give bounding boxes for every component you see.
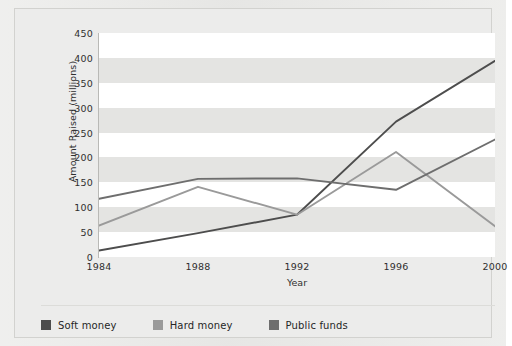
legend-swatch-icon	[269, 320, 279, 330]
y-axis-tick-label: 150	[53, 177, 93, 188]
legend-label: Public funds	[286, 320, 348, 331]
legend-item[interactable]: Public funds	[269, 320, 348, 331]
x-axis-tick-label: 1992	[267, 261, 327, 272]
y-axis-tick-label: 250	[53, 127, 93, 138]
y-axis-tick-label: 100	[53, 202, 93, 213]
series-lines	[99, 33, 495, 257]
legend-swatch-icon	[41, 320, 51, 330]
legend-divider	[41, 305, 495, 306]
x-axis-tick-label: 1996	[366, 261, 426, 272]
x-axis-tick-label: 2000	[465, 261, 512, 272]
legend-item[interactable]: Soft money	[41, 320, 117, 331]
y-axis-tick-label: 450	[53, 28, 93, 39]
x-axis-tick-label: 1988	[168, 261, 228, 272]
y-axis-tick-label: 300	[53, 102, 93, 113]
x-axis-ticks: 19841988199219962000	[99, 261, 495, 275]
x-axis-tick-label: 1984	[69, 261, 129, 272]
y-axis-tick-label: 200	[53, 152, 93, 163]
plot-area	[99, 33, 495, 257]
y-axis-ticks: 450400350300250200150100500	[49, 33, 93, 257]
chart-frame: Amount Raised (millions) 450400350300250…	[14, 8, 492, 338]
legend-label: Hard money	[170, 320, 233, 331]
chart-legend: Soft moneyHard moneyPublic funds	[41, 315, 495, 335]
legend-item[interactable]: Hard money	[153, 320, 233, 331]
legend-label: Soft money	[58, 320, 117, 331]
series-line	[99, 61, 495, 251]
legend-swatch-icon	[153, 320, 163, 330]
x-axis-title: Year	[99, 277, 495, 288]
y-axis-tick-label: 400	[53, 52, 93, 63]
y-axis-tick-label: 350	[53, 77, 93, 88]
series-line	[99, 140, 495, 199]
y-axis-tick-label: 50	[53, 227, 93, 238]
series-line	[99, 152, 495, 226]
